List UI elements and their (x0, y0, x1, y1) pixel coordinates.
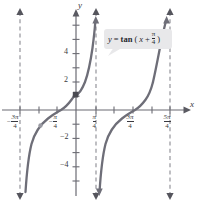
equation-function: tan (121, 34, 133, 44)
equation-equals: = (114, 34, 119, 44)
equation-fraction: π 4 (152, 31, 156, 46)
equation-open-paren: ( (134, 34, 137, 44)
equation-variable: x (139, 34, 143, 44)
x-tick-label-neg-3pi-4: − 3π 4 (7, 113, 18, 130)
curve-branch-left (26, 95, 77, 192)
x-tick-label-neg-pi-4-den: 4 (53, 121, 57, 130)
asymptote-neg-3pi-4-arrow-up (16, 8, 23, 15)
curve-branch-middle-lower (100, 82, 154, 192)
x-tick-label-neg-3pi-4-num: 3π (11, 113, 18, 121)
equation-callout-tail (108, 49, 120, 57)
equation-lhs: y (108, 34, 112, 44)
x-tick-label-pi-4: π 4 (92, 113, 96, 130)
x-tick-label-neg-pi-4-sign: − (49, 118, 53, 126)
point-marker-0-1 (73, 92, 79, 98)
equation-fraction-numerator: π (152, 31, 156, 38)
x-tick-label-5pi-4-num: 5π (164, 113, 171, 121)
point-marker-secondary (38, 123, 42, 127)
y-tick-label-neg-4: −4 (60, 160, 69, 169)
x-tick-label-3pi-4-den: 4 (127, 121, 134, 130)
equation-text: y = tan ( x + π 4 ) (108, 31, 160, 46)
x-tick-label-3pi-4: 3π 4 (126, 113, 134, 130)
asymptote-5pi-4-arrow-down (166, 193, 173, 200)
x-tick-label-neg-pi-4: − π 4 (49, 113, 57, 130)
y-tick-label-2: 2 (64, 75, 68, 84)
curve-branch-right-arrow (163, 16, 170, 24)
equation-close-paren: ) (157, 34, 160, 44)
y-axis-arrow (73, 9, 80, 17)
asymptote-pi-4-arrow-up (92, 8, 99, 15)
curve-branch-middle-upper (76, 22, 95, 95)
x-tick-label-5pi-4-den: 4 (164, 121, 171, 130)
x-tick-label-5pi-4: 5π 4 (163, 113, 171, 130)
y-tick-label-neg-2: −2 (60, 132, 69, 141)
x-tick-label-3pi-4-num: 3π (127, 113, 134, 121)
x-tick-label-neg-3pi-4-den: 4 (11, 121, 18, 130)
asymptote-5pi-4-arrow-up (166, 8, 173, 15)
equation-plus: + (145, 34, 150, 44)
y-axis-label: y (78, 0, 82, 10)
x-tick-label-neg-pi-4-num: π (53, 113, 57, 121)
graph-figure: x y y = tan ( x + π 4 ) − 3π 4 − π 4 π 4 (0, 0, 206, 208)
equation-fraction-denominator: 4 (152, 38, 156, 46)
graph-canvas (0, 0, 206, 208)
x-axis-label: x (190, 99, 194, 109)
x-tick-label-pi-4-num: π (93, 113, 97, 121)
y-tick-label-4: 4 (64, 47, 68, 56)
curve-branch-middle-upper-arrow (92, 16, 99, 24)
x-tick-label-pi-4-den: 4 (93, 121, 97, 130)
asymptote-neg-3pi-4-arrow-down (16, 193, 23, 200)
